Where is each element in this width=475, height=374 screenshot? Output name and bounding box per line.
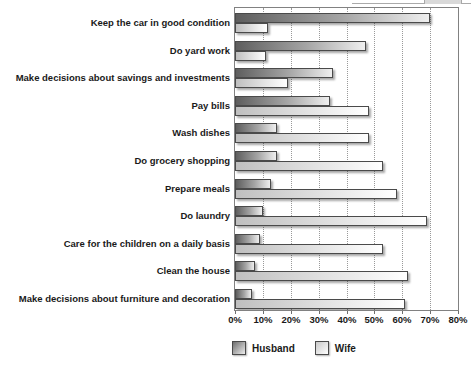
bar-wife-8: [235, 244, 383, 254]
legend: Husband Wife: [232, 341, 356, 355]
category-label-10: Make decisions about furniture and decor…: [0, 293, 230, 305]
gridline-30: [319, 8, 320, 310]
bar-husband-7: [235, 206, 263, 216]
bar-wife-3: [235, 106, 369, 116]
bar-husband-3: [235, 96, 330, 106]
category-label-0: Keep the car in good condition: [0, 17, 230, 29]
bar-wife-0: [235, 23, 268, 33]
category-label-5: Do grocery shopping: [0, 155, 230, 167]
bar-husband-8: [235, 234, 260, 244]
legend-swatch-wife: [315, 341, 329, 355]
cropped-edge-artifact: [424, 0, 462, 4]
legend-swatch-husband: [232, 341, 246, 355]
bar-wife-4: [235, 133, 369, 143]
bar-husband-5: [235, 151, 277, 161]
plot-area: [234, 7, 459, 311]
category-label-3: Pay bills: [0, 100, 230, 112]
gridline-20: [291, 8, 292, 310]
category-label-7: Do laundry: [0, 210, 230, 222]
bar-wife-6: [235, 189, 397, 199]
bar-wife-5: [235, 161, 383, 171]
bar-wife-10: [235, 299, 405, 309]
bar-wife-2: [235, 78, 288, 88]
bar-wife-7: [235, 216, 427, 226]
bar-wife-1: [235, 51, 266, 61]
bar-husband-4: [235, 123, 277, 133]
gridline-40: [347, 8, 348, 310]
category-label-4: Wash dishes: [0, 127, 230, 139]
bar-husband-9: [235, 261, 255, 271]
bar-husband-2: [235, 68, 333, 78]
gridline-70: [430, 8, 431, 310]
category-label-2: Make decisions about savings and investm…: [0, 72, 230, 84]
legend-label-husband: Husband: [252, 343, 295, 354]
bar-husband-1: [235, 41, 366, 51]
legend-label-wife: Wife: [335, 343, 356, 354]
category-label-8: Care for the children on a daily basis: [0, 238, 230, 250]
chart-screenshot: Keep the car in good conditionDo yard wo…: [0, 0, 475, 374]
category-label-1: Do yard work: [0, 45, 230, 57]
gridline-60: [402, 8, 403, 310]
category-label-6: Prepare meals: [0, 183, 230, 195]
bar-husband-6: [235, 179, 271, 189]
category-label-9: Clean the house: [0, 265, 230, 277]
gridline-50: [374, 8, 375, 310]
bar-husband-10: [235, 289, 252, 299]
x-tick-label-80: 80%: [442, 314, 474, 325]
bar-wife-9: [235, 271, 408, 281]
bar-husband-0: [235, 13, 430, 23]
